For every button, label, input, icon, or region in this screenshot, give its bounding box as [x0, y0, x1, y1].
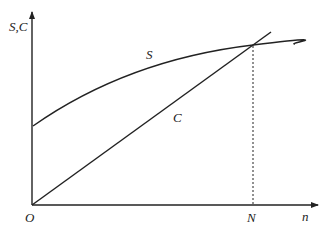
diagram: S,C O N n S C	[0, 0, 327, 234]
n-label: N	[247, 211, 256, 224]
y-axis-label: S,C	[9, 20, 27, 33]
c-line-label: C	[173, 111, 182, 124]
s-curve-label: S	[146, 48, 153, 61]
origin-label: O	[25, 211, 34, 224]
s-curve	[33, 40, 305, 126]
x-axis-label: n	[302, 210, 309, 223]
diagram-canvas	[0, 0, 327, 234]
